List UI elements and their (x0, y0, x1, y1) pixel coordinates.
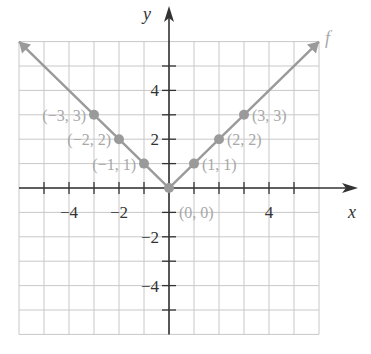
y-tick-label: 2 (151, 130, 160, 149)
data-point (239, 110, 249, 120)
data-point (214, 134, 224, 144)
point-label: (3, 3) (252, 107, 287, 125)
abs-value-graph: −4−2442−2−4xyf(−3, 3)(−2, 2)(−1, 1)(0, 0… (0, 0, 371, 354)
chart-container: −4−2442−2−4xyf(−3, 3)(−2, 2)(−1, 1)(0, 0… (0, 0, 371, 354)
data-point (164, 183, 174, 193)
point-label: (0, 0) (179, 204, 214, 222)
function-label: f (325, 28, 333, 48)
point-label: (−2, 2) (67, 131, 111, 149)
y-axis-label: y (141, 4, 151, 24)
point-label: (2, 2) (227, 131, 262, 149)
point-label: (−1, 1) (92, 156, 136, 174)
data-point (189, 159, 199, 169)
y-tick-label: −4 (141, 277, 160, 296)
x-tick-label: −2 (110, 203, 128, 222)
data-point (139, 159, 149, 169)
y-tick-label: −2 (141, 228, 159, 247)
x-tick-label: −4 (60, 203, 79, 222)
y-tick-label: 4 (151, 81, 160, 100)
x-tick-label: 4 (265, 203, 274, 222)
point-label: (1, 1) (202, 156, 237, 174)
data-point (89, 110, 99, 120)
point-label: (−3, 3) (42, 107, 86, 125)
x-axis-label: x (347, 202, 356, 222)
data-point (114, 134, 124, 144)
